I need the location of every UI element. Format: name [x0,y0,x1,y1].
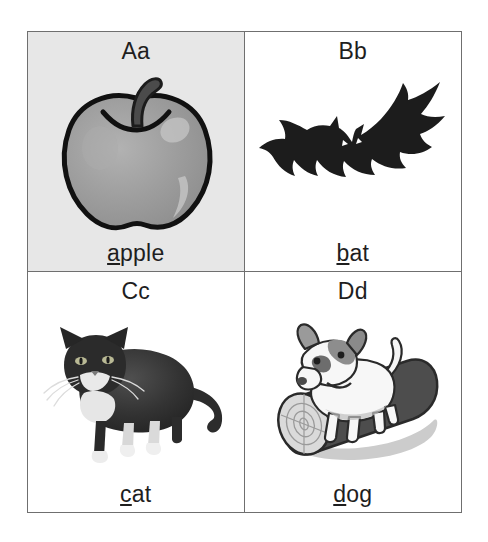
bat-illustration [245,63,462,241]
word-initial-c: c [120,481,132,507]
alphabet-chart-page: Aa [0,0,488,542]
word-initial-d: d [333,481,346,507]
dog-svg [255,317,451,469]
word-label-bat: bat [336,241,369,265]
letter-heading-b: Bb [338,39,367,63]
alphabet-chart-grid: Aa [27,31,462,513]
cat-photo [28,303,244,482]
chart-cell-apple: Aa [28,32,245,272]
word-rest-apple: pple [120,240,164,266]
chart-cell-bat: Bb bat [245,32,462,272]
word-rest-bat: at [349,240,369,266]
word-initial-a: a [107,240,120,266]
bat-svg [251,72,455,232]
cat-svg [38,321,234,465]
letter-heading-a: Aa [121,39,150,63]
word-label-cat: cat [120,482,151,506]
dog-on-log-illustration [245,303,462,482]
letter-heading-d: Dd [338,279,368,303]
word-label-apple: apple [107,241,164,265]
chart-cell-dog: Dd [245,272,462,512]
word-label-dog: dog [333,482,372,506]
word-rest-cat: at [132,481,152,507]
apple-illustration [28,63,244,241]
chart-cell-cat: Cc [28,272,245,512]
word-initial-b: b [336,240,349,266]
word-rest-dog: og [346,481,372,507]
letter-heading-c: Cc [121,279,150,303]
apple-svg [45,68,227,236]
